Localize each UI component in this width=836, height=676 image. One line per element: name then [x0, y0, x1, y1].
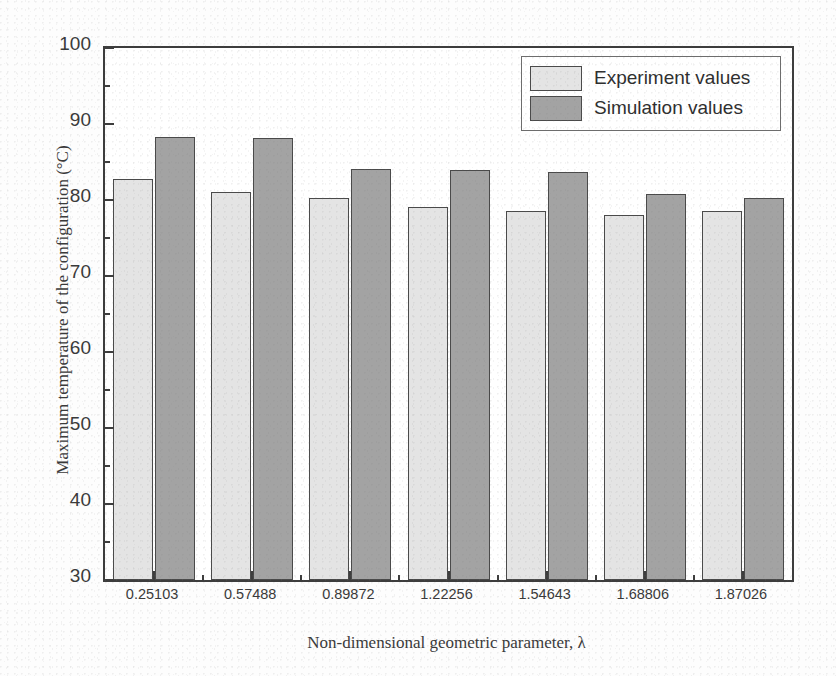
y-tick-label: 30 [47, 565, 91, 587]
x-tick-label: 0.25103 [97, 586, 207, 602]
bar-simulation-1.87026 [744, 198, 784, 580]
bar-simulation-1.54643 [548, 172, 588, 580]
x-tick-major [448, 571, 450, 580]
y-tick-minor [105, 85, 110, 87]
legend-item-simulation: Simulation values [530, 93, 772, 123]
legend-label-experiment: Experiment values [594, 67, 750, 89]
y-tick-major [105, 123, 114, 125]
bar-experiment-0.57488 [211, 192, 251, 580]
y-tick-label: 40 [47, 489, 91, 511]
x-tick-major [742, 571, 744, 580]
y-tick-major [105, 579, 114, 581]
legend-swatch-simulation-icon [530, 96, 582, 121]
x-tick-minor [595, 575, 597, 580]
bar-experiment-0.89872 [309, 198, 349, 580]
chart-legend: Experiment values Simulation values [521, 56, 781, 131]
bar-simulation-1.22256 [450, 170, 490, 580]
y-tick-major [105, 47, 114, 49]
x-tick-minor [693, 575, 695, 580]
x-tick-minor [398, 575, 400, 580]
x-tick-major [546, 571, 548, 580]
x-tick-label: 1.87026 [686, 586, 796, 602]
legend-swatch-experiment-icon [530, 66, 582, 91]
x-tick-minor [300, 575, 302, 580]
y-tick-major [105, 199, 114, 201]
y-tick-label: 100 [47, 33, 91, 55]
bar-experiment-1.22256 [408, 207, 448, 580]
bar-experiment-1.87026 [702, 211, 742, 580]
bar-experiment-1.54643 [506, 211, 546, 580]
x-tick-major [251, 571, 253, 580]
x-tick-label: 0.57488 [195, 586, 305, 602]
y-tick-label: 60 [47, 337, 91, 359]
y-tick-label: 70 [47, 261, 91, 283]
bar-simulation-0.89872 [351, 169, 391, 580]
y-tick-minor [105, 541, 110, 543]
x-tick-minor [497, 575, 499, 580]
bar-experiment-1.68806 [604, 215, 644, 580]
y-tick-minor [105, 313, 110, 315]
y-tick-label: 80 [47, 185, 91, 207]
x-tick-major [644, 571, 646, 580]
y-tick-label: 50 [47, 413, 91, 435]
y-tick-minor [105, 161, 110, 163]
x-tick-major [153, 571, 155, 580]
legend-label-simulation: Simulation values [594, 97, 743, 119]
y-axis-title: Maximum temperature of the configuration… [53, 75, 73, 545]
y-tick-minor [105, 465, 110, 467]
y-tick-major [105, 275, 114, 277]
x-tick-major [349, 571, 351, 580]
bar-simulation-0.25103 [155, 137, 195, 580]
x-tick-minor [202, 575, 204, 580]
bar-simulation-1.68806 [646, 194, 686, 580]
x-tick-label: 0.89872 [293, 586, 403, 602]
y-tick-major [105, 427, 114, 429]
x-tick-label: 1.22256 [392, 586, 502, 602]
legend-item-experiment: Experiment values [530, 63, 772, 93]
bar-chart-figure: Maximum temperature of the configuration… [0, 0, 836, 676]
x-tick-label: 1.54643 [490, 586, 600, 602]
bar-simulation-0.57488 [253, 138, 293, 580]
x-axis-title: Non-dimensional geometric parameter, λ [103, 633, 790, 653]
y-tick-major [105, 503, 114, 505]
y-tick-minor [105, 389, 110, 391]
bar-experiment-0.25103 [113, 179, 153, 580]
y-tick-major [105, 351, 114, 353]
y-tick-label: 90 [47, 109, 91, 131]
y-tick-minor [105, 237, 110, 239]
x-tick-label: 1.68806 [588, 586, 698, 602]
